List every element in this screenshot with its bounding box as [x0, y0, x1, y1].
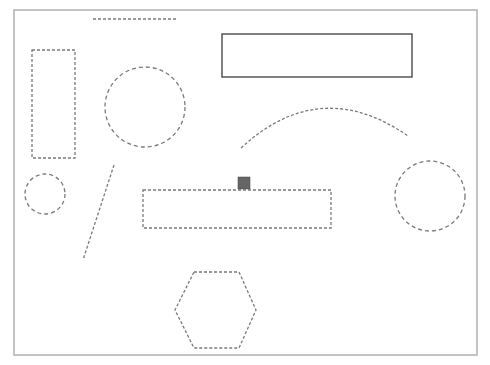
right-circle-shape[interactable] [395, 161, 465, 231]
hexagon-shape[interactable] [175, 272, 256, 348]
small-circle-shape[interactable] [25, 174, 65, 214]
rotate-handle[interactable] [238, 177, 250, 189]
left-rect-shape[interactable] [32, 50, 75, 158]
diagonal-line-shape[interactable] [83, 165, 114, 260]
selected-rect-shape[interactable] [143, 190, 331, 228]
solid-rect-shape[interactable] [222, 34, 412, 77]
drawing-canvas[interactable] [0, 0, 490, 365]
big-circle-shape[interactable] [105, 67, 185, 147]
arc-shape[interactable] [241, 108, 408, 148]
